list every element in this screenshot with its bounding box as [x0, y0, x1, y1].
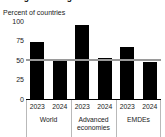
- group-label-line: World: [26, 116, 71, 124]
- bar: [53, 61, 67, 99]
- y-axis-tick-label: 50: [0, 57, 24, 64]
- year-label: 2024: [139, 103, 161, 111]
- year-label: 2024: [49, 103, 71, 111]
- group-divider: [116, 100, 117, 113]
- group-divider: [71, 113, 72, 137]
- plot-area: [26, 21, 161, 99]
- year-label: 2023: [116, 103, 138, 111]
- bar: [98, 58, 112, 99]
- group-label-band: WorldAdvancedeconomiesEMDEs: [26, 113, 161, 137]
- bar: [75, 25, 89, 99]
- chart-title-text: Rising share of growth forecasts: [3, 0, 163, 2]
- group-divider: [26, 113, 27, 137]
- group-divider: [26, 100, 27, 113]
- reference-line-50: [26, 59, 161, 61]
- group-divider: [116, 113, 117, 137]
- year-label-band: 202320242023202420232024: [26, 100, 161, 113]
- group-divider: [71, 100, 72, 113]
- bar: [143, 62, 157, 99]
- group-divider: [160, 113, 161, 137]
- y-axis-tick-label: 25: [0, 76, 24, 83]
- year-label: 2023: [26, 103, 48, 111]
- group-label: World: [26, 116, 71, 124]
- group-label: EMDEs: [116, 116, 161, 124]
- chart-title-clipped: Rising share of growth forecasts: [3, 0, 163, 2]
- group-label-line: Advanced: [71, 116, 116, 124]
- year-label: 2023: [71, 103, 93, 111]
- bar: [120, 47, 134, 99]
- y-axis-tick-label: 75: [0, 37, 24, 44]
- chart-figure: Rising share of growth forecasts Percent…: [0, 0, 165, 137]
- y-axis-tick-label: 0: [0, 96, 24, 103]
- y-axis-tick-label: 100: [0, 18, 24, 25]
- group-divider: [160, 100, 161, 113]
- bar: [30, 42, 44, 99]
- group-label-line: economies: [71, 124, 116, 132]
- y-axis-title: Percent of countries: [3, 9, 65, 17]
- group-label: Advancedeconomies: [71, 116, 116, 132]
- group-label-line: EMDEs: [116, 116, 161, 124]
- year-label: 2024: [94, 103, 116, 111]
